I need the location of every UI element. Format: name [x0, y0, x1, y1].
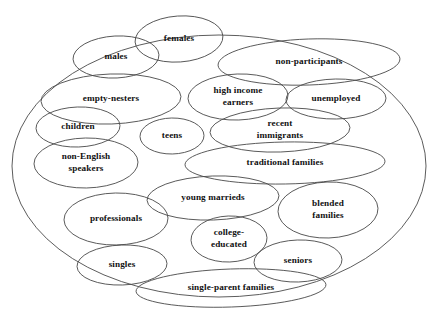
segment-label-males: males	[105, 51, 128, 61]
segment-label-non-english-speakers: non-Englishspeakers	[62, 151, 111, 173]
segment-label-professionals: professionals	[90, 213, 143, 223]
segment-label-empty-nesters: empty-nesters	[83, 93, 140, 103]
segment-label-blended-families: blendedfamilies	[312, 198, 344, 220]
segment-label-single-parent-families: single-parent families	[188, 282, 275, 292]
market-segmentation-diagram: femalesmalesnon-participantsempty-nester…	[0, 0, 439, 316]
segment-label-college-educated: college-educated	[211, 227, 247, 249]
segment-label-children: children	[61, 121, 94, 131]
segment-label-non-participants: non-participants	[276, 56, 343, 66]
segment-label-seniors: seniors	[284, 255, 313, 265]
segment-ellipse-layer	[34, 13, 401, 310]
venn-diagram-canvas: femalesmalesnon-participantsempty-nester…	[0, 0, 439, 316]
segment-label-unemployed: unemployed	[312, 93, 361, 103]
segment-label-young-marrieds: young marrieds	[181, 192, 245, 202]
segment-label-traditional-families: traditional families	[247, 157, 324, 167]
segment-label-teens: teens	[162, 130, 183, 140]
segment-label-singles: singles	[109, 259, 136, 269]
segment-label-females: females	[164, 33, 195, 43]
